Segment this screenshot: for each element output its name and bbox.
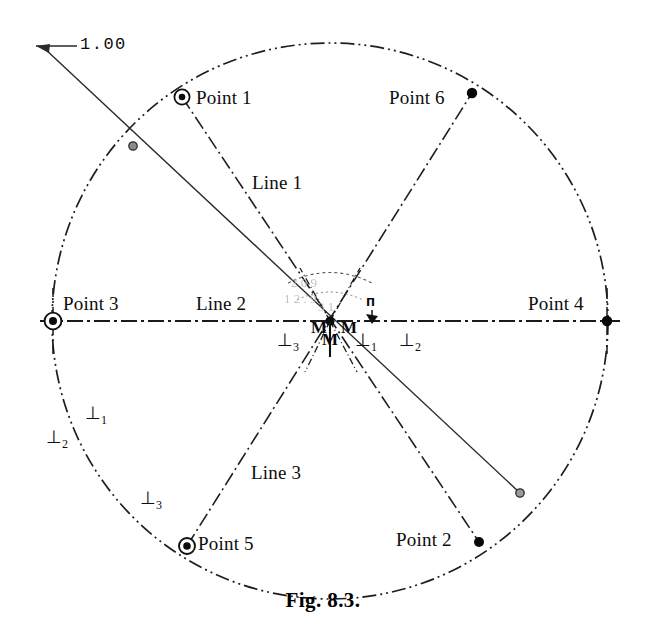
point-4-label: Point 4	[528, 294, 584, 313]
point-1-marker[interactable]	[174, 89, 189, 104]
perp-glyph: ⊥	[140, 488, 156, 508]
perp-glyph: ⊥	[277, 330, 293, 350]
perp-glyph: ⊥	[355, 330, 371, 350]
perp-index: 1	[101, 413, 107, 427]
scan-artifact-b: 1 2 . 9	[284, 292, 317, 305]
perp-symbol-lower-left-1: ⊥1	[85, 404, 107, 426]
midpoint-mark-b: M	[322, 331, 338, 348]
perp-symbol-lower-left-3: ⊥3	[140, 489, 162, 511]
solid-object-line	[44, 48, 520, 493]
figure-caption: Fig. 8.3.	[0, 588, 646, 613]
perp-index: 3	[293, 340, 299, 354]
point-3-marker[interactable]	[45, 313, 62, 330]
point-3-label: Point 3	[63, 294, 119, 313]
point-5-marker[interactable]	[179, 538, 195, 554]
point-5-label: Point 5	[198, 534, 254, 553]
point-4-marker[interactable]	[602, 316, 612, 326]
point-6-marker[interactable]	[467, 88, 477, 98]
scan-artifact-a: 2 0 9	[291, 276, 317, 289]
perp-glyph: ⊥	[399, 330, 415, 350]
perp-symbol-center-2: ⊥2	[399, 331, 421, 353]
midpoint-mark-c: M	[341, 319, 357, 336]
solid-line-upper-endpoint-marker	[129, 142, 137, 150]
perp-symbol-lower-left-2: ⊥2	[46, 428, 68, 450]
perp-glyph: ⊥	[46, 427, 62, 447]
figure-8-3: 1.00 Point 1 Point 6 Line 1 Point 3 Line…	[0, 0, 646, 627]
line-1-label: Line 1	[252, 173, 302, 192]
parallel-mark-arrowhead	[366, 314, 378, 324]
line-2-label: Line 2	[196, 294, 246, 313]
parallel-mark-a: п	[366, 293, 375, 308]
perp-index: 2	[415, 340, 421, 354]
solid-line-lower-endpoint-marker	[516, 489, 524, 497]
point-2-marker[interactable]	[474, 537, 484, 547]
perp-glyph: ⊥	[85, 403, 101, 423]
scan-artifact-c: 3 1	[318, 300, 334, 313]
dimension-label-1-00: 1.00	[80, 36, 127, 53]
perp-index: 2	[62, 437, 68, 451]
line-3-label: Line 3	[251, 463, 301, 482]
perp-index: 1	[371, 340, 377, 354]
point-1-label: Point 1	[196, 88, 252, 107]
point-2-label: Point 2	[396, 530, 452, 549]
perp-index: 3	[156, 498, 162, 512]
perp-symbol-center-1: ⊥1	[355, 331, 377, 353]
perp-symbol-center-3: ⊥3	[277, 331, 299, 353]
point-6-label: Point 6	[389, 88, 445, 107]
